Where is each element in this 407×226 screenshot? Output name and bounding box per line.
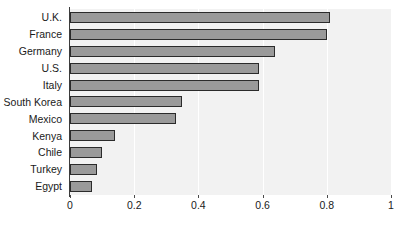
bar-row (70, 46, 391, 57)
category-label: Kenya (0, 131, 66, 142)
bar-row (70, 12, 391, 23)
bar (70, 130, 115, 141)
bar-row (70, 130, 391, 141)
bar-row (70, 181, 391, 192)
bar-row (70, 29, 391, 40)
category-label: Egypt (0, 181, 66, 192)
category-axis: U.K.FranceGermanyU.S.ItalySouth KoreaMex… (0, 9, 66, 195)
category-label: Chile (0, 147, 66, 158)
axis-tick-mark (134, 195, 135, 198)
gridline (391, 9, 392, 195)
bar-series (70, 9, 391, 195)
bar-row (70, 63, 391, 74)
bar (70, 46, 275, 57)
category-label: U.S. (0, 63, 66, 74)
bar-row (70, 164, 391, 175)
bar-row (70, 147, 391, 158)
axis-tick-mark (263, 195, 264, 198)
bar-row (70, 96, 391, 107)
bar (70, 29, 327, 40)
axis-tick-mark (391, 195, 392, 198)
axis-tick-mark (70, 195, 71, 198)
bar-chart: U.K.FranceGermanyU.S.ItalySouth KoreaMex… (0, 0, 407, 226)
category-label: Mexico (0, 114, 66, 125)
axis-tick-label: 0.8 (319, 200, 334, 211)
bar (70, 181, 92, 192)
value-axis-zero-line (69, 7, 70, 197)
bar (70, 164, 97, 175)
axis-tick-mark (198, 195, 199, 198)
bar (70, 147, 102, 158)
plot-area (70, 9, 391, 195)
bar (70, 96, 182, 107)
axis-tick-label: 0.6 (255, 200, 270, 211)
bar (70, 80, 259, 91)
axis-tick-label: 0.2 (127, 200, 142, 211)
category-label: Italy (0, 80, 66, 91)
bar (70, 12, 330, 23)
category-label: France (0, 29, 66, 40)
axis-tick-label: 1 (388, 200, 394, 211)
axis-tick-mark (327, 195, 328, 198)
bar (70, 113, 176, 124)
bar (70, 63, 259, 74)
category-label: U.K. (0, 12, 66, 23)
bar-row (70, 80, 391, 91)
category-label: Turkey (0, 164, 66, 175)
bar-row (70, 113, 391, 124)
axis-tick-label: 0.4 (191, 200, 206, 211)
category-label: South Korea (0, 97, 66, 108)
value-axis: 00.20.40.60.81 (70, 195, 391, 219)
category-label: Germany (0, 46, 66, 57)
axis-tick-label: 0 (67, 200, 73, 211)
